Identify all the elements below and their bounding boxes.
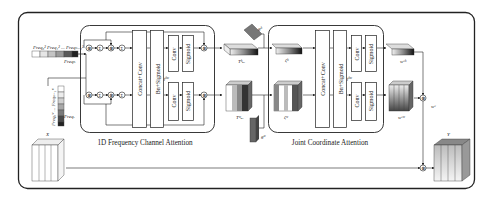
t-h-label: Tʰₐₓ — [238, 59, 246, 64]
w-c-label: wᶜ — [431, 104, 436, 109]
freq-row-sub-label: Freqₕ — [63, 59, 76, 64]
c-h-label: ζʰ — [285, 58, 289, 63]
left-conv-bottom-label: Conv — [171, 94, 177, 107]
op-glyph: ⊗ — [109, 93, 113, 98]
output-y-tensor — [434, 139, 470, 181]
left-concat-conv-label: Concat+Conv — [137, 62, 143, 95]
w-w-tensor — [389, 81, 413, 111]
t-w-tensor — [226, 81, 252, 111]
op-glyph: ⊗ — [421, 96, 425, 101]
c-w-tensor — [274, 81, 302, 111]
output-y-label: Y — [447, 132, 451, 137]
op-glyph: Σ — [120, 93, 123, 98]
op-glyph: ⊗ — [421, 166, 425, 171]
right-conv-top-label: Conv — [354, 47, 360, 60]
left-module-frame — [81, 26, 215, 133]
t-h-tensor — [224, 44, 258, 55]
input-x-label: X — [45, 132, 50, 137]
input-x-tensor — [32, 139, 64, 181]
left-sigmoid-bottom-label: Sigmoid — [185, 91, 191, 111]
freq-col-strip — [58, 86, 64, 126]
right-module-title: Joint Coordinate Attention — [292, 139, 369, 147]
left-sigmoid-top-label: Sigmoid — [185, 44, 191, 64]
g-w-tensor — [250, 115, 259, 142]
w-w-label: wᶜʷ — [398, 115, 406, 120]
right-fmid-label: fʰʷ — [347, 76, 353, 81]
op-glyph: Σ — [120, 46, 123, 51]
right-sigmoid-bottom-label: Sigmoid — [368, 91, 374, 111]
c-w-label: ζʷ — [284, 115, 289, 120]
freq-row-label: Freq₀² Freq₁² ... Freqₙ₋₁² — [32, 45, 84, 50]
w-h-label: wᶜʰ — [400, 59, 407, 64]
op-glyph: Σ — [98, 93, 101, 98]
op-glyph: ⊗ — [202, 93, 206, 98]
freq-col-sub-label: Freqᵥ — [63, 114, 76, 119]
c-h-tensor — [272, 44, 302, 54]
left-fmid-label: fʰʷ — [164, 76, 170, 81]
g-w-label: gʷ — [261, 134, 267, 139]
right-concat-conv-label: Concat+Conv — [320, 62, 326, 95]
right-conv-bottom-label: Conv — [354, 94, 360, 107]
freq-col-label: Freq₀ʷ ... Freqₙ₋₁ʷ — [51, 88, 56, 127]
left-bn-sigmoid-label: Bn+Sigmoid — [155, 64, 161, 95]
module-joint-coordinate-attention: ζʰ ζʷ Concat+Conv Bn+Sigmoid fʰʷ Conv Si… — [269, 26, 387, 148]
left-module-title: 1D Frequency Channel Attention — [97, 139, 193, 147]
op-glyph: ⊗ — [109, 46, 113, 51]
diagram-canvas: Freq₀² Freq₁² ... Freqₙ₋₁² Freqₕ Freq₀ʷ … — [0, 0, 491, 198]
op-glyph: ⊗ — [87, 46, 91, 51]
t-w-label: Tʷₐₓ — [236, 115, 244, 120]
op-glyph: ⊗ — [87, 93, 91, 98]
right-sigmoid-top-label: Sigmoid — [368, 44, 374, 64]
w-h-tensor — [386, 44, 414, 55]
module-1d-frequency-channel-attention: Freq₀² Freq₁² ... Freqₙ₋₁² Freqₕ Freq₀ʷ … — [32, 26, 222, 148]
g-h-label: gʰ — [258, 26, 263, 31]
left-conv-top-label: Conv — [171, 47, 177, 60]
op-glyph: Σ — [98, 46, 101, 51]
right-bn-sigmoid-label: Bn+Sigmoid — [338, 64, 344, 95]
freq-row-strip — [32, 51, 78, 57]
op-glyph: ⊗ — [202, 46, 206, 51]
